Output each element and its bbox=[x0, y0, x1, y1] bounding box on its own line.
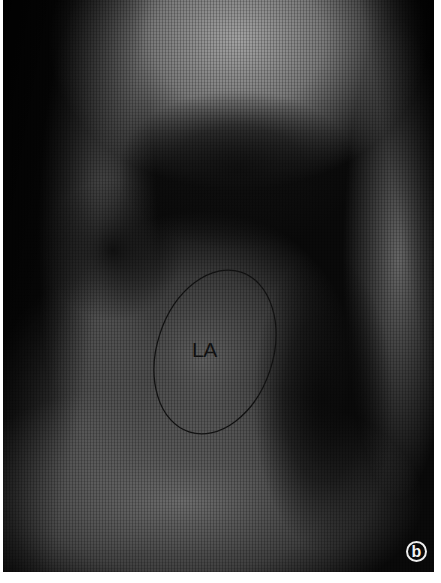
cardiac-shadow bbox=[3, 0, 434, 572]
left-atrium-label: LA bbox=[192, 339, 217, 360]
upper-chest-shadow bbox=[3, 0, 434, 572]
radiograph-image: LA b bbox=[3, 0, 434, 572]
panel-label-badge: b bbox=[406, 541, 427, 562]
halftone-texture bbox=[3, 0, 434, 572]
lung-fields bbox=[3, 0, 434, 572]
image-edge-vignette bbox=[3, 0, 434, 572]
